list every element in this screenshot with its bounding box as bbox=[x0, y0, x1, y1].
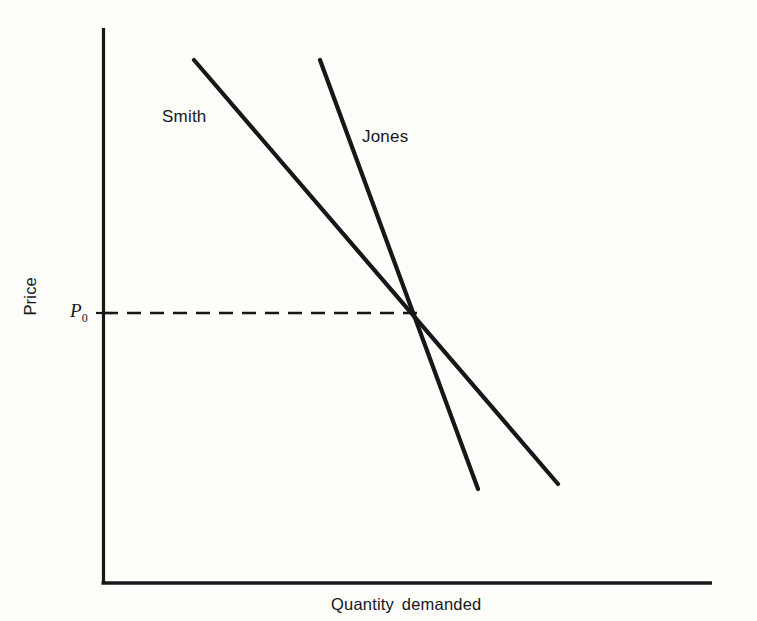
demand-curve-smith bbox=[194, 60, 558, 484]
y-axis-label-text: Price bbox=[21, 277, 40, 316]
equilibrium-price-label: P0 bbox=[70, 300, 88, 326]
figure-canvas: Smith Jones Quantity demanded Price P0 bbox=[0, 0, 757, 621]
demand-curve-jones bbox=[320, 60, 478, 489]
series-label-jones: Jones bbox=[362, 127, 408, 147]
equilibrium-price-symbol: P bbox=[70, 300, 82, 321]
y-axis-label: Price bbox=[21, 238, 40, 277]
demand-curve-chart bbox=[0, 0, 757, 621]
equilibrium-price-subscript: 0 bbox=[82, 311, 88, 325]
x-axis-label: Quantity demanded bbox=[331, 595, 481, 614]
series-label-smith: Smith bbox=[162, 107, 206, 127]
